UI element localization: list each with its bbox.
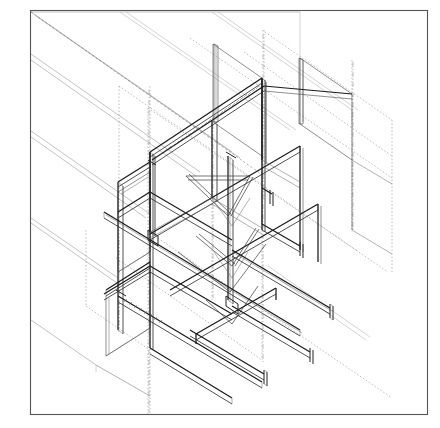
isometric-structural-drawing	[0, 0, 440, 428]
vertical-columns	[150, 78, 321, 350]
rear-panel-frames	[213, 44, 352, 230]
hidden-grid-lines	[31, 12, 392, 414]
drawing-canvas	[0, 0, 440, 428]
background-slab-planes	[31, 12, 370, 372]
upper-frame-bay	[150, 78, 352, 236]
middle-left-bay	[106, 162, 150, 356]
